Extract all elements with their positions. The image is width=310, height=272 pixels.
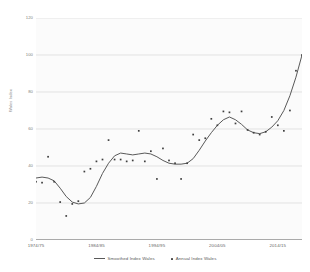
x-axis-tick-label: 2004/05 [209,243,226,248]
annual-index-point [144,161,146,163]
legend-label: Smoothed Index Wales [108,256,155,261]
annual-index-point [259,134,261,136]
annual-index-point [114,159,116,161]
chart-container: Wales Index 020406080100120 1974/751984/… [0,0,310,272]
annual-index-point [301,54,302,56]
annual-index-point [77,200,79,202]
annual-index-point [295,70,297,72]
annual-index-point [223,111,225,113]
annual-index-point [235,123,237,125]
x-axis-tick-labels: 1974/751984/851994/952004/052014/15 [36,243,302,253]
annual-index-point [198,139,200,141]
annual-index-point [289,110,291,112]
annual-index-point [138,130,140,132]
legend-entry[interactable]: Smoothed Index Wales [94,256,155,261]
y-axis-tick-label: 80 [28,90,33,94]
plot-area [36,18,302,240]
annual-index-point [271,116,273,118]
legend-label: Annual Index Wales [176,256,217,261]
annual-index-point [162,148,164,150]
y-axis-tick-label: 20 [28,201,33,205]
y-axis-tick-label: 40 [28,164,33,168]
chart-legend: Smoothed Index WalesAnnual Index Wales [0,256,310,261]
smoothed-index-line [36,55,302,204]
legend-line-swatch-icon [94,258,105,259]
annual-index-point [41,182,43,184]
x-axis-tick-label: 1974/75 [28,243,45,248]
annual-index-point [241,111,243,113]
x-axis-tick-label: 2014/15 [270,243,287,248]
annual-index-point [180,178,182,180]
annual-index-point [53,181,55,183]
annual-index-point [150,150,152,152]
annual-index-point [108,139,110,141]
legend-entry[interactable]: Annual Index Wales [171,256,217,261]
annual-index-point [210,118,212,120]
annual-index-point [71,203,73,205]
annual-index-point [168,160,170,162]
annual-index-point [156,178,158,180]
x-axis-tick-label: 1984/85 [88,243,105,248]
annual-index-point [217,124,219,126]
annual-index-point [90,168,92,170]
y-axis-tick-label: 0 [31,238,33,242]
annual-index-point [96,161,98,163]
annual-index-point [36,181,37,183]
annual-index-point [247,129,249,131]
annual-index-point [47,156,49,158]
annual-index-point [84,171,86,173]
annual-index-point [283,130,285,132]
annual-index-point [229,112,231,114]
annual-index-point [174,162,176,164]
annual-index-point [192,134,194,136]
y-axis-tick-labels: 020406080100120 [16,18,33,240]
y-axis-tick-label: 120 [26,16,33,20]
annual-index-point [204,137,206,139]
data-series-layer [36,18,302,240]
annual-index-point [186,162,188,164]
annual-index-point [132,160,134,162]
annual-index-point [265,131,267,133]
y-axis-title: Wales Index [8,89,13,112]
annual-index-point [102,159,104,161]
y-axis-tick-label: 60 [28,127,33,131]
y-axis-tick-label: 100 [26,53,33,57]
annual-index-point [126,161,128,163]
annual-index-point [59,201,61,203]
x-axis-tick-label: 1994/95 [149,243,166,248]
legend-dot-swatch-icon [171,258,173,260]
annual-index-point [120,159,122,161]
annual-index-point [277,124,279,126]
annual-index-point [253,132,255,134]
annual-index-point [65,215,67,217]
